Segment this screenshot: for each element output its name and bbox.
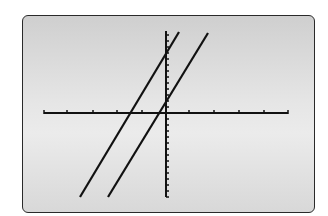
plotted-line-1 bbox=[80, 32, 179, 197]
graph-plot bbox=[0, 0, 328, 216]
plotted-line-2 bbox=[108, 33, 208, 197]
